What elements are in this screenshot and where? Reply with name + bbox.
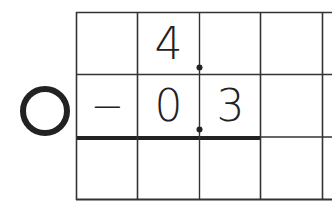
cell-r0-c2 — [200, 13, 261, 75]
cell-r0-c1: 4 — [138, 13, 199, 75]
answer-cell-c1[interactable] — [138, 139, 199, 201]
cell-r1-c2: 3 — [200, 75, 261, 137]
subtraction-worksheet: 4 − 0 3 — [0, 0, 332, 207]
cell-r0-c3 — [261, 13, 322, 75]
cell-r1-c1: 0 — [138, 75, 199, 137]
cell-r1-c3 — [261, 75, 322, 137]
answer-cell-c0[interactable] — [77, 139, 138, 201]
cell-r0-c0 — [77, 13, 138, 75]
answer-cell-c3[interactable] — [261, 139, 322, 201]
minus-sign: − — [77, 75, 138, 137]
answer-cell-c2[interactable] — [200, 139, 261, 201]
circle-icon — [20, 86, 70, 136]
